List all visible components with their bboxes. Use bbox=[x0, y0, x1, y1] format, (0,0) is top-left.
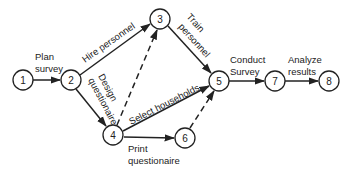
svg-text:6: 6 bbox=[182, 133, 188, 144]
svg-text:3: 3 bbox=[157, 14, 163, 25]
svg-text:4: 4 bbox=[110, 130, 116, 141]
label-hire-personnel: Hire personnel bbox=[80, 20, 137, 64]
svg-text:1: 1 bbox=[20, 75, 26, 86]
node-2: 2 bbox=[61, 70, 81, 90]
label-analyze-results-2: results bbox=[288, 66, 316, 77]
label-conduct-survey-2: Survey bbox=[230, 66, 260, 77]
svg-text:2: 2 bbox=[68, 75, 74, 86]
node-6: 6 bbox=[175, 128, 195, 148]
activity-network-diagram: 1 2 3 4 5 6 7 8 Plan survey Hire personn… bbox=[0, 0, 348, 175]
label-select-households: Select households bbox=[127, 82, 201, 127]
label-plan-survey-2: survey bbox=[35, 63, 63, 74]
label-plan-survey-1: Plan bbox=[35, 51, 54, 62]
edge-4-6 bbox=[124, 137, 174, 138]
label-print-questionaire-2: questionaire bbox=[128, 155, 180, 166]
label-analyze-results-1: Analyze bbox=[288, 54, 322, 65]
svg-text:5: 5 bbox=[216, 76, 222, 87]
node-3: 3 bbox=[150, 9, 170, 29]
svg-text:7: 7 bbox=[272, 76, 278, 87]
svg-text:8: 8 bbox=[326, 76, 332, 87]
node-7: 7 bbox=[265, 71, 285, 91]
label-print-questionaire-1: Print bbox=[128, 143, 148, 154]
node-4: 4 bbox=[103, 125, 123, 145]
label-conduct-survey-1: Conduct bbox=[230, 54, 266, 65]
node-8: 8 bbox=[319, 71, 339, 91]
node-5: 5 bbox=[209, 71, 229, 91]
edge-6-5-dummy bbox=[190, 91, 214, 128]
node-1: 1 bbox=[13, 70, 33, 90]
